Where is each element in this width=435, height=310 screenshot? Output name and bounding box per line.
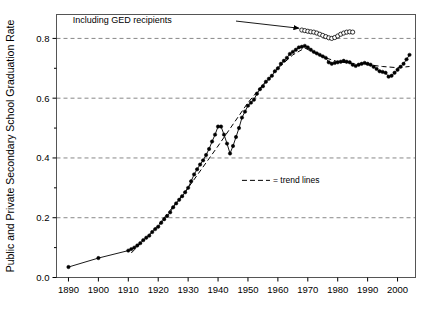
x-tick-label-1900: 1900 <box>88 284 109 295</box>
data-point <box>249 101 252 104</box>
y-axis-label: Public and Private Secondary School Grad… <box>4 19 16 272</box>
data-point <box>408 53 411 56</box>
data-point <box>405 58 408 61</box>
graduation-rate-line-chart: Including GED recipients = trend lines 0… <box>0 0 435 310</box>
x-tick-label-1910: 1910 <box>118 284 139 295</box>
x-tick-label-1920: 1920 <box>148 284 169 295</box>
data-point <box>390 74 393 77</box>
data-point <box>201 159 204 162</box>
data-point <box>207 147 210 150</box>
y-tick-label-0.6: 0.6 <box>36 93 49 104</box>
including-ged-recipients-annotation-text: Including GED recipients <box>73 15 173 25</box>
x-tick-label-1980: 1980 <box>327 284 348 295</box>
y-tick-label-0: 0.0 <box>36 272 49 283</box>
legend-label-trend-lines-legend-entry: = trend lines <box>273 175 320 185</box>
y-tick-label-0.2: 0.2 <box>36 212 49 223</box>
data-point <box>195 168 198 171</box>
data-point <box>384 71 387 74</box>
data-point <box>309 48 312 51</box>
data-point <box>243 110 246 113</box>
data-point <box>288 52 291 55</box>
x-tick-label-2000: 2000 <box>387 284 408 295</box>
data-point <box>189 180 192 183</box>
data-point <box>237 126 240 129</box>
data-point <box>225 142 228 145</box>
chart-figure: Including GED recipients = trend lines 0… <box>0 0 435 310</box>
data-point <box>291 50 294 53</box>
data-point <box>393 71 396 74</box>
x-tick-label-1940: 1940 <box>207 284 228 295</box>
data-point <box>213 133 216 136</box>
data-point <box>222 133 225 136</box>
data-point <box>192 173 195 176</box>
data-point <box>375 67 378 70</box>
x-tick-label-1990: 1990 <box>357 284 378 295</box>
x-tick-label-1960: 1960 <box>267 284 288 295</box>
data-point-open <box>351 30 355 34</box>
data-point <box>402 62 405 65</box>
data-point <box>252 98 255 101</box>
data-point <box>219 125 222 128</box>
data-point <box>198 163 201 166</box>
data-point <box>133 246 136 249</box>
data-point <box>204 153 207 156</box>
data-point <box>231 144 234 147</box>
x-tick-label-1890: 1890 <box>58 284 79 295</box>
x-tick-label-1970: 1970 <box>297 284 318 295</box>
data-point <box>282 59 285 62</box>
data-point <box>234 135 237 138</box>
chart-background <box>0 0 435 310</box>
y-tick-label-0.4: 0.4 <box>36 152 49 163</box>
data-point <box>97 256 100 259</box>
data-point <box>228 152 231 155</box>
x-tick-label-1930: 1930 <box>178 284 199 295</box>
data-point <box>294 48 297 51</box>
y-tick-label-0.8: 0.8 <box>36 33 49 44</box>
data-point <box>240 116 243 119</box>
data-point <box>67 265 70 268</box>
data-point <box>396 68 399 71</box>
data-point <box>210 140 213 143</box>
x-tick-label-1950: 1950 <box>237 284 258 295</box>
